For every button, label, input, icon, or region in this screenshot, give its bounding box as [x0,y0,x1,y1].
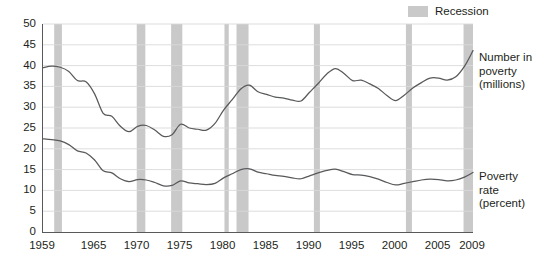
series-label-number-in-poverty-line: Number in [479,51,532,65]
y-axis-tick-label: 0 [6,226,36,238]
x-axis-tick-label: 1975 [167,240,193,252]
series-label-number-in-poverty: Number inpoverty(millions) [479,51,532,92]
series-label-number-in-poverty-line: poverty [479,65,532,79]
y-axis-tick-label: 45 [6,39,36,51]
x-axis-tick-label: 1980 [210,240,236,252]
y-axis-tick-label: 25 [6,122,36,134]
x-axis-tick-label: 1970 [124,240,150,252]
x-axis-tick-label: 2009 [459,240,485,252]
x-axis-tick-label: 1990 [296,240,322,252]
plot-area [42,24,473,233]
legend-label-recession: Recession [435,5,489,17]
y-axis-tick-label: 5 [6,205,36,217]
series-label-poverty-rate-line: Poverty [479,170,525,184]
x-axis-tick-label: 1959 [29,240,55,252]
x-axis-tick-label: 1985 [253,240,279,252]
y-axis-tick-label: 35 [6,80,36,92]
y-axis-tick-label: 20 [6,143,36,155]
series-label-poverty-rate-line: rate [479,184,525,198]
recession-swatch-icon [408,6,428,17]
series-label-poverty-rate: Povertyrate(percent) [479,170,525,211]
y-axis-tick-label: 15 [6,164,36,176]
y-axis-tick-label: 50 [6,18,36,30]
x-axis-tick-label: 2000 [382,240,408,252]
chart-legend: Recession [408,5,489,17]
series-label-number-in-poverty-line: (millions) [479,78,532,92]
x-axis-tick-label: 2005 [425,240,451,252]
y-axis-tick-label: 30 [6,101,36,113]
x-axis-tick-label: 1965 [81,240,107,252]
x-axis-tick-label: 1995 [339,240,365,252]
plot-canvas [43,24,473,232]
poverty-chart: Recession 05101520253035404550 195919651… [0,0,545,263]
series-label-poverty-rate-line: (percent) [479,197,525,211]
y-axis-tick-label: 40 [6,60,36,72]
y-axis-tick-label: 10 [6,184,36,196]
